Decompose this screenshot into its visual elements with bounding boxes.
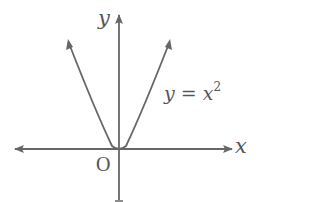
y-axis [115, 15, 123, 201]
equation-equals: = [181, 82, 197, 104]
equation-exponent: 2 [213, 80, 221, 94]
y-axis-label: y [98, 6, 110, 30]
equation-base: x [203, 82, 214, 104]
left-arrowhead-icon [66, 39, 73, 50]
curve-equation-label: y = x2 [164, 80, 221, 104]
equation-lhs: y [164, 82, 175, 104]
origin-label: O [96, 153, 110, 176]
right-arrowhead-icon [165, 39, 172, 50]
x-axis-label: x [235, 134, 247, 158]
